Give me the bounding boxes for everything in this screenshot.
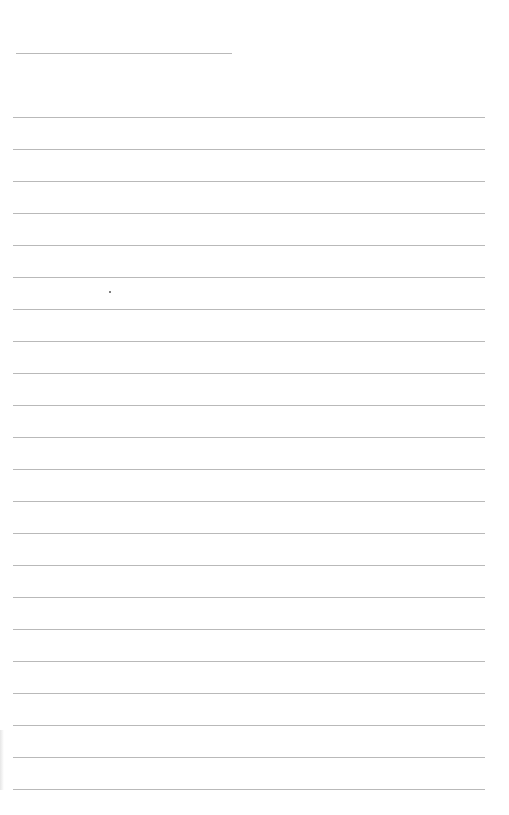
ruled-line	[13, 693, 485, 694]
ruled-line	[13, 373, 485, 374]
ruled-line	[13, 501, 485, 502]
ruled-line	[13, 789, 485, 790]
ruled-line	[13, 149, 485, 150]
ruled-line	[13, 341, 485, 342]
ruled-line	[13, 629, 485, 630]
ruled-line	[13, 597, 485, 598]
ink-dot	[109, 291, 111, 293]
title-line	[16, 53, 232, 54]
ruled-line	[13, 469, 485, 470]
ruled-line	[13, 757, 485, 758]
ruled-line	[13, 309, 485, 310]
ruled-line	[13, 725, 485, 726]
ruled-line	[13, 437, 485, 438]
ruled-line	[13, 213, 485, 214]
ruled-line	[13, 277, 485, 278]
ruled-line	[13, 117, 485, 118]
ruled-line	[13, 405, 485, 406]
ruled-line	[13, 181, 485, 182]
page-edge-shadow	[0, 730, 4, 790]
ruled-line	[13, 565, 485, 566]
ruled-line	[13, 245, 485, 246]
ruled-line	[13, 533, 485, 534]
lined-page	[0, 0, 509, 815]
ruled-line	[13, 661, 485, 662]
